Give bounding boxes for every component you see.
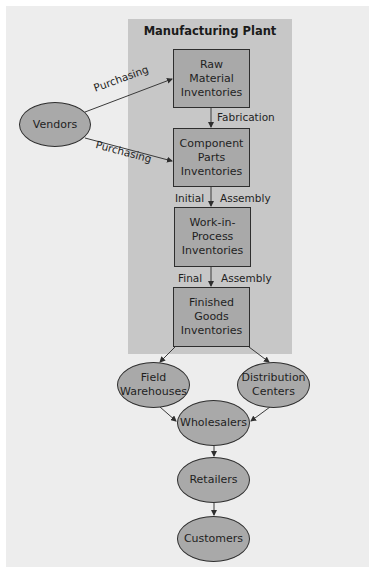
node-wholesalers: Wholesalers	[177, 400, 250, 446]
node-vendors-label: Vendors	[33, 118, 77, 132]
edge-label-assembly-final: Assembly	[221, 272, 272, 284]
node-wip-line-3: Inventories	[182, 244, 244, 258]
node-field-warehouses: Field Warehouses	[117, 362, 190, 408]
node-component-parts-inventories: Component Parts Inventories	[173, 128, 250, 187]
node-wholesalers-label: Wholesalers	[180, 416, 247, 430]
node-vendors: Vendors	[19, 102, 91, 147]
node-retailers: Retailers	[177, 457, 250, 503]
edge-label-fabrication: Fabrication	[217, 111, 275, 123]
node-finished-line-3: Inventories	[181, 324, 243, 338]
node-field-line-1: Field	[120, 371, 187, 385]
edge-label-final: Final	[178, 272, 202, 284]
node-customers: Customers	[177, 516, 250, 562]
node-component-line-2: Parts	[180, 151, 244, 165]
edge-finished-distribution	[249, 347, 269, 362]
node-distribution-line-2: Centers	[241, 385, 305, 399]
node-raw-material-inventories: Raw Material Inventories	[173, 49, 250, 108]
edge-field-wholesalers	[160, 407, 176, 421]
node-raw-line-3: Inventories	[181, 86, 243, 100]
edge-distribution-wholesalers	[251, 407, 270, 421]
node-raw-line-1: Raw	[181, 58, 243, 72]
node-finished-goods-inventories: Finished Goods Inventories	[173, 287, 250, 347]
edge-label-initial: Initial	[175, 192, 204, 204]
node-finished-line-2: Goods	[181, 310, 243, 324]
edge-finished-field	[160, 347, 175, 362]
node-work-in-process-inventories: Work-in- Process Inventories	[174, 207, 251, 267]
node-field-line-2: Warehouses	[120, 385, 187, 399]
edge-label-assembly-initial: Assembly	[220, 192, 271, 204]
node-distribution-line-1: Distribution	[241, 371, 305, 385]
node-retailers-label: Retailers	[189, 473, 237, 487]
node-wip-line-2: Process	[182, 230, 244, 244]
diagram-canvas: Manufacturing Plant Purchasing Purchasin…	[0, 0, 371, 574]
node-customers-label: Customers	[184, 532, 243, 546]
node-component-line-3: Inventories	[180, 165, 244, 179]
node-raw-line-2: Material	[181, 72, 243, 86]
node-distribution-centers: Distribution Centers	[237, 362, 310, 408]
node-component-line-1: Component	[180, 137, 244, 151]
node-finished-line-1: Finished	[181, 296, 243, 310]
node-wip-line-1: Work-in-	[182, 216, 244, 230]
